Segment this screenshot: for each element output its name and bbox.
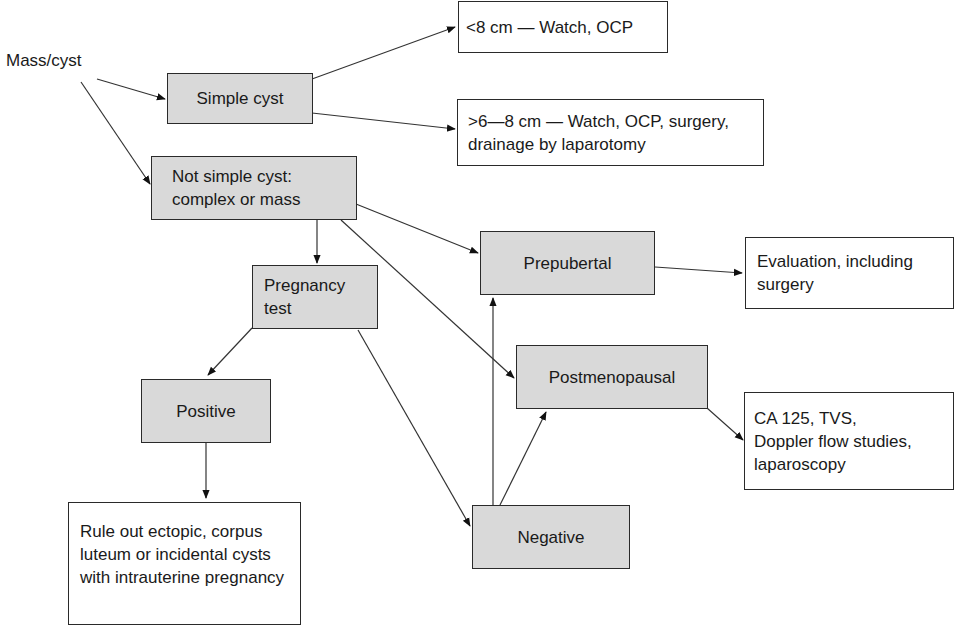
node-text: Positive bbox=[176, 400, 236, 423]
node-text: Prepubertal bbox=[524, 252, 612, 275]
edge-postmeno-to-ca125 bbox=[707, 408, 743, 440]
edge-simple-to-gt6 bbox=[312, 113, 455, 129]
node-text: <8 cm — Watch, OCP bbox=[466, 16, 633, 39]
node-text: complex or mass bbox=[172, 188, 300, 211]
node-text: test bbox=[264, 297, 291, 320]
node-rule-out: Rule out ectopic, corpus luteum or incid… bbox=[68, 502, 301, 625]
node-text: Negative bbox=[517, 526, 584, 549]
node-positive: Positive bbox=[141, 379, 271, 443]
edge-notsimple-to-prepubertal bbox=[356, 204, 478, 253]
edge-pregnancy-to-positive bbox=[208, 328, 252, 375]
node-text: luteum or incidental cysts bbox=[80, 543, 271, 566]
node-lt8cm: <8 cm — Watch, OCP bbox=[458, 1, 668, 53]
node-pregnancy-test: Pregnancy test bbox=[252, 265, 378, 329]
edge-simple-to-lt8 bbox=[312, 27, 455, 79]
edge-mass-to-simple bbox=[97, 79, 165, 99]
node-negative: Negative bbox=[472, 505, 630, 569]
edge-negative-to-postmeno bbox=[500, 412, 546, 505]
node-prepubertal: Prepubertal bbox=[480, 231, 655, 295]
node-evaluation: Evaluation, including surgery bbox=[745, 237, 954, 309]
node-text: Doppler flow studies, bbox=[754, 430, 912, 453]
edge-pregnancy-to-negative bbox=[358, 330, 470, 526]
node-text: CA 125, TVS, bbox=[754, 407, 857, 430]
node-text: Postmenopausal bbox=[549, 366, 676, 389]
node-text: Not simple cyst: bbox=[172, 165, 292, 188]
node-postmenopausal: Postmenopausal bbox=[516, 345, 708, 409]
node-text: >6—8 cm — Watch, OCP, surgery, bbox=[468, 110, 729, 133]
node-text: laparoscopy bbox=[754, 453, 846, 476]
edge-prepubertal-to-evaluation bbox=[655, 267, 742, 273]
node-text: Evaluation, including bbox=[757, 250, 913, 273]
node-text: Pregnancy bbox=[264, 274, 345, 297]
node-ca125-workup: CA 125, TVS, Doppler flow studies, lapar… bbox=[744, 392, 954, 490]
edge-mass-to-notsimple bbox=[81, 82, 150, 184]
node-text: Rule out ectopic, corpus bbox=[80, 520, 262, 543]
node-text: Simple cyst bbox=[197, 87, 284, 110]
node-not-simple-cyst: Not simple cyst: complex or mass bbox=[151, 156, 357, 220]
node-text: drainage by laparotomy bbox=[468, 133, 646, 156]
node-text: surgery bbox=[757, 273, 814, 296]
node-simple-cyst: Simple cyst bbox=[167, 73, 313, 124]
node-gt6-8cm: >6—8 cm — Watch, OCP, surgery, drainage … bbox=[457, 99, 764, 166]
flowchart-canvas: Mass/cyst Simple cyst Not simple cyst: c… bbox=[0, 0, 964, 640]
start-label-mass-cyst: Mass/cyst bbox=[6, 50, 82, 72]
node-text: with intrauterine pregnancy bbox=[80, 566, 284, 589]
